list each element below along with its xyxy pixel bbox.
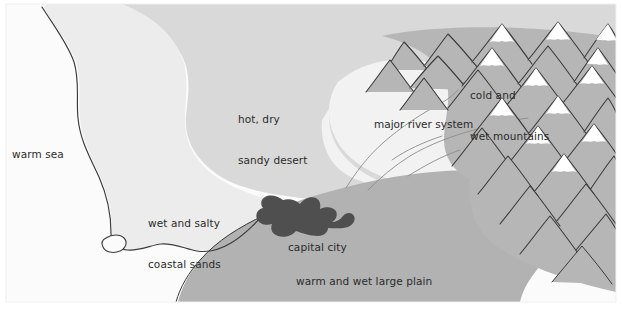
label-warm-and-wet-large-plain: warm and wet large plain <box>296 275 432 289</box>
label-major-river-system: major river system <box>374 118 473 132</box>
label-wet-and-salty-coastal-sands: wet and salty coastal sands <box>148 190 221 298</box>
label-line: wet and salty <box>148 217 221 231</box>
label-line: sandy desert <box>238 154 307 168</box>
label-line: hot, dry <box>238 113 307 127</box>
label-cold-and-wet-mountains: cold and wet mountains <box>470 62 549 170</box>
label-warm-sea: warm sea <box>12 148 64 162</box>
label-capital-city: capital city <box>288 241 347 255</box>
label-line: wet mountains <box>470 130 549 144</box>
coastal-island <box>102 235 126 252</box>
terrain-map: warm sea hot, dry sandy desert wet and s… <box>0 0 622 323</box>
label-line: coastal sands <box>148 258 221 272</box>
label-hot-dry-sandy-desert: hot, dry sandy desert <box>238 86 307 194</box>
label-line: cold and <box>470 89 549 103</box>
